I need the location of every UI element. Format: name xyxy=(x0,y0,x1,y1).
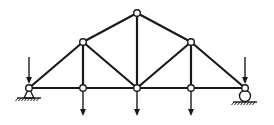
truss-member xyxy=(29,42,83,88)
truss-members xyxy=(29,13,245,88)
truss-member xyxy=(137,13,191,42)
truss-member xyxy=(83,42,137,88)
truss-joint-l0 xyxy=(26,85,33,92)
load-arrow-icon xyxy=(80,92,86,116)
truss-joint-u1 xyxy=(80,39,87,46)
truss-member xyxy=(191,42,245,88)
truss-member xyxy=(83,13,137,42)
load-arrow-icon xyxy=(188,92,194,116)
load-arrow-icon xyxy=(134,92,140,116)
truss-joint-l3 xyxy=(188,85,195,92)
truss-diagram xyxy=(0,0,274,125)
truss-joint-l1 xyxy=(80,85,87,92)
truss-member xyxy=(137,42,191,88)
roller-support-icon xyxy=(232,91,258,106)
load-arrow-icon xyxy=(26,57,32,84)
truss-joint-l4 xyxy=(242,85,249,92)
truss-joint-u2 xyxy=(134,10,141,17)
load-arrow-icon xyxy=(242,57,248,84)
truss-joint-u3 xyxy=(188,39,195,46)
truss-joint-l2 xyxy=(134,85,141,92)
